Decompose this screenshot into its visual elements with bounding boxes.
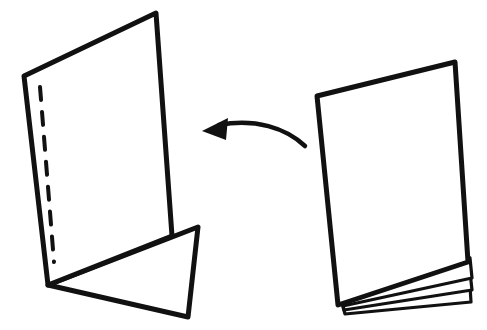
diagram-canvas: Hand drawn diagram: a pad of sheets on t… [0,0,487,330]
page-stack [317,62,472,314]
stack-front-page [317,62,468,305]
illustration-svg [0,0,487,330]
